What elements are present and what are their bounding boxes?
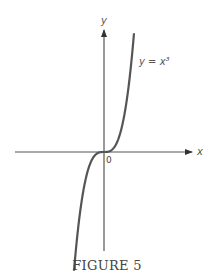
curve-label: y = x³ [138,56,170,67]
y-axis-label: y [100,15,108,26]
origin-label: 0 [106,155,112,165]
x-axis-label: x [196,146,203,157]
figure-caption: FIGURE 5 [72,258,142,273]
chart: y x 0 y = x³ FIGURE 5 [0,0,214,280]
